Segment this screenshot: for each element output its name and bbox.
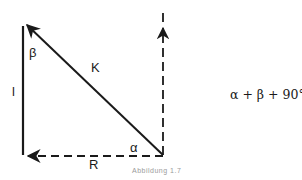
label-beta: β xyxy=(29,46,36,59)
label-r: R xyxy=(89,158,98,171)
figure-caption: Abbildung 1.7 xyxy=(132,167,181,174)
angle-sum-equation: α + β + 90° = 180° xyxy=(230,87,302,102)
label-k: K xyxy=(91,61,100,74)
label-alpha: α xyxy=(130,141,138,154)
vector-k xyxy=(27,25,163,155)
label-l: l xyxy=(12,85,15,98)
